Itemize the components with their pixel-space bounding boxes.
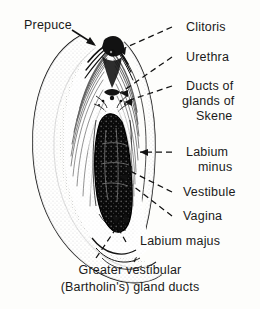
label-bartholin-line2: (Bartholin's) gland ducts	[0, 280, 260, 294]
label-ducts-line1: Ducts of	[186, 79, 233, 93]
label-clitoris: Clitoris	[186, 20, 226, 34]
label-vagina: Vagina	[183, 209, 222, 223]
label-ducts-line3: Skene	[196, 109, 232, 123]
label-ducts-line2: glands of	[182, 94, 235, 108]
label-prepuce: Prepuce	[24, 18, 72, 32]
label-labium-minus-line2: minus	[198, 160, 232, 174]
label-labium-minus-line1: Labium	[186, 145, 228, 159]
clitoris-glans	[109, 50, 116, 57]
label-urethra: Urethra	[186, 50, 229, 64]
label-labium-majus: Labium majus	[140, 234, 220, 248]
label-vestibule: Vestibule	[183, 185, 236, 199]
label-bartholin-line1: Greater vestibular	[0, 263, 260, 277]
